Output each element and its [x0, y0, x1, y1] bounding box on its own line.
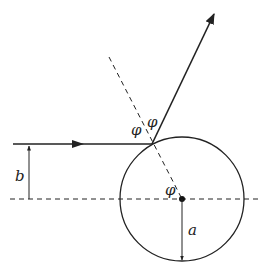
scattering-diagram: b a φ φ φ: [0, 0, 269, 278]
label-phi-incident: φ: [131, 121, 142, 139]
label-b: b: [15, 167, 25, 185]
incoming-ray-arrow-icon: [72, 140, 84, 148]
label-a: a: [188, 221, 197, 239]
label-phi-reflected: φ: [147, 113, 158, 131]
label-phi-center: φ: [165, 181, 176, 199]
normal-line: [109, 57, 182, 199]
reflected-ray: [152, 14, 214, 144]
